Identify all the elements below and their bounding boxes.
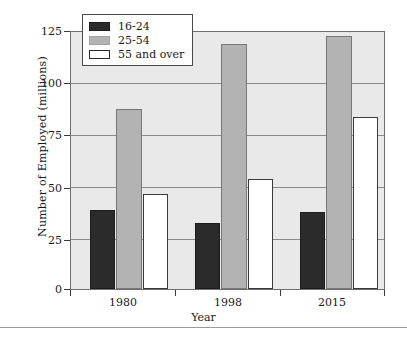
legend-item-16-24: 16-24 <box>89 19 184 33</box>
x-tick-label-1998: 1998 <box>193 296 263 309</box>
legend-label-16-24: 16-24 <box>118 20 150 33</box>
y-tick-label-75: 75 <box>28 130 62 141</box>
page-divider <box>0 327 407 328</box>
y-tick-label-25: 25 <box>28 235 62 246</box>
bar-1998-55-and-over <box>248 179 273 289</box>
bar-2015-25-54 <box>326 36 352 289</box>
x-tick-label-2015: 2015 <box>297 296 367 309</box>
plot-area <box>70 31 385 290</box>
y-axis-title: Number of Employed (millions) <box>36 37 49 257</box>
legend: 16-24 25-54 55 and over <box>82 14 193 66</box>
bar-1998-16-24 <box>195 223 220 289</box>
x-axis-title: Year <box>0 311 407 324</box>
y-tick-label-0: 0 <box>28 284 62 295</box>
x-tick-mark-1 <box>175 290 176 296</box>
legend-swatch-25-54-icon <box>89 36 110 45</box>
legend-swatch-16-24-icon <box>89 22 110 31</box>
x-tick-mark-left <box>70 290 71 296</box>
legend-item-55-and-over: 55 and over <box>89 47 184 61</box>
x-tick-mark-right <box>384 290 385 296</box>
bar-chart-figure: Number of Employed (millions) 125 100 75… <box>0 0 407 340</box>
y-tick-label-100: 100 <box>28 78 62 89</box>
x-tick-mark-2 <box>280 290 281 296</box>
bar-1980-25-54 <box>116 109 142 289</box>
bar-2015-55-and-over <box>353 117 378 289</box>
y-tick-label-50: 50 <box>28 183 62 194</box>
y-tick-label-125: 125 <box>28 26 62 37</box>
bar-1980-16-24 <box>90 210 115 289</box>
legend-label-55-and-over: 55 and over <box>118 48 184 61</box>
bar-1998-25-54 <box>221 44 247 289</box>
legend-swatch-55-and-over-icon <box>89 50 110 59</box>
x-tick-label-1980: 1980 <box>88 296 158 309</box>
legend-item-25-54: 25-54 <box>89 33 184 47</box>
legend-label-25-54: 25-54 <box>118 34 150 47</box>
bar-1980-55-and-over <box>143 194 168 289</box>
bar-2015-16-24 <box>300 212 325 289</box>
